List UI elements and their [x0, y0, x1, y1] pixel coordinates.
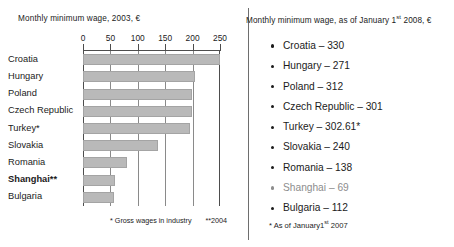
list-item-label: Czech Republic – 301 — [283, 101, 383, 112]
category-label: Bulgaria — [8, 191, 42, 201]
bar — [83, 175, 115, 186]
category-labels: CroatiaHungaryPolandCzech RepublicTurkey… — [8, 51, 80, 206]
list-title: Monthly minimum wage, as of January 1st … — [246, 14, 432, 25]
list-item-label: Slovakia – 240 — [283, 141, 350, 152]
x-axis-tick — [220, 44, 221, 50]
chart-footnote-b: **2004 — [206, 216, 228, 225]
category-label: Turkey* — [8, 123, 40, 133]
chart-title: Monthly minimum wage, 2003, € — [18, 14, 140, 23]
list-item-label: Bulgaria – 112 — [283, 202, 348, 213]
chart-footnote: * Gross wages in industry **2004 — [110, 216, 227, 225]
list-item-label: Hungary – 271 — [283, 60, 350, 71]
x-axis-tick-label: 200 — [186, 33, 200, 43]
category-label: Croatia — [8, 54, 38, 64]
bar — [83, 106, 192, 117]
x-axis-tick — [83, 44, 84, 50]
wage-list-panel: Monthly minimum wage, as of January 1st … — [227, 0, 454, 247]
x-axis-tick-label: 250 — [213, 33, 227, 43]
list-item: Poland – 312 — [270, 77, 383, 97]
list-item-label: Poland – 312 — [283, 81, 343, 92]
x-axis-tick-label: 50 — [106, 33, 115, 43]
category-label: Hungary — [8, 71, 43, 81]
list-footnote: * As of January1st 2007 — [269, 219, 348, 230]
bar — [83, 54, 220, 65]
bar-row — [83, 172, 220, 189]
bar-row — [83, 154, 220, 171]
x-axis-tick — [165, 44, 166, 50]
category-label: Shanghai** — [8, 174, 57, 184]
bullet-icon — [271, 166, 274, 169]
list-title-prefix: Monthly minimum wage, as of January 1 — [246, 16, 396, 25]
bar-row — [83, 137, 220, 154]
list-item-label: Turkey – 302.61* — [283, 121, 360, 132]
infographic-root: Monthly minimum wage, 2003, € 0501001502… — [0, 0, 454, 247]
category-label: Romania — [8, 157, 45, 167]
bullet-icon — [271, 186, 274, 189]
bar-row — [83, 51, 220, 68]
list-item: Romania – 138 — [270, 158, 383, 178]
category-label: Slovakia — [8, 140, 43, 150]
bullet-icon — [271, 44, 274, 47]
list-item: Turkey – 302.61* — [270, 117, 383, 137]
bar-row — [83, 103, 220, 120]
x-axis-tick — [138, 44, 139, 50]
bullet-icon — [271, 146, 274, 149]
chart-footnote-a: * Gross wages in industry — [110, 216, 192, 225]
bar — [83, 123, 190, 134]
bar-chart-panel: Monthly minimum wage, 2003, € 0501001502… — [0, 0, 227, 247]
x-axis-tick-label: 150 — [158, 33, 172, 43]
category-label: Czech Republic — [8, 105, 73, 115]
list-footnote-suffix: 2007 — [329, 221, 348, 230]
list-title-suffix: 2008, € — [401, 16, 431, 25]
bullet-icon — [271, 126, 274, 129]
bar-row — [83, 85, 220, 102]
bar-row — [83, 189, 220, 206]
list-item-label: Romania – 138 — [283, 162, 352, 173]
list-item: Bulgaria – 112 — [270, 198, 383, 218]
x-axis-tick — [110, 44, 111, 50]
bar — [83, 140, 158, 151]
list-item: Shanghai – 69 — [270, 178, 383, 198]
bullet-icon — [271, 65, 274, 68]
category-label: Poland — [8, 88, 37, 98]
list-item: Czech Republic – 301 — [270, 97, 383, 117]
wage-list: Croatia – 330Hungary – 271Poland – 312Cz… — [270, 36, 383, 219]
bullet-icon — [271, 105, 274, 108]
list-item: Slovakia – 240 — [270, 137, 383, 157]
list-item: Hungary – 271 — [270, 56, 383, 76]
list-item-label: Croatia – 330 — [283, 40, 344, 51]
bar-row — [83, 120, 220, 137]
list-footnote-prefix: * As of January1 — [269, 221, 324, 230]
list-item: Croatia – 330 — [270, 36, 383, 56]
x-axis-tick-label: 100 — [131, 33, 145, 43]
bar — [83, 71, 195, 82]
plot-area — [83, 51, 220, 206]
bar — [83, 157, 127, 168]
bar-row — [83, 68, 220, 85]
bar — [83, 192, 114, 203]
x-axis-tick-label: 0 — [81, 33, 86, 43]
x-axis-tick — [193, 44, 194, 50]
bar — [83, 89, 192, 100]
list-item-label: Shanghai – 69 — [283, 182, 349, 193]
bullet-icon — [271, 85, 274, 88]
bullet-icon — [271, 207, 274, 210]
